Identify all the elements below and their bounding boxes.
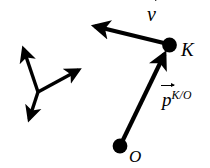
momentum-superscript: K/O — [172, 89, 192, 102]
axis-up-left-arrow — [24, 49, 39, 92]
diagram-canvas: v K p K/O O — [0, 0, 210, 168]
position-vector-p-k-over-o — [122, 54, 165, 142]
point-k-label: K — [181, 40, 194, 59]
vector-diagram-svg — [0, 0, 210, 168]
velocity-symbol: v — [147, 3, 156, 25]
point-o-label: O — [129, 148, 141, 165]
axis-up-right-arrow — [38, 70, 79, 92]
velocity-vector-label: v — [147, 4, 156, 24]
axis-down-left-arrow — [29, 92, 38, 119]
momentum-symbol-wrap: p — [162, 90, 172, 109]
position-vector-line — [122, 54, 165, 142]
momentum-vector-label: p K/O — [162, 90, 192, 109]
velocity-symbol-wrap: v — [147, 4, 156, 24]
vector-arrow-accent-icon — [161, 85, 174, 86]
velocity-vector-v — [95, 26, 168, 44]
point-k-dot — [162, 38, 177, 53]
point-o-dot — [113, 139, 128, 154]
coordinate-axes-triad — [24, 49, 79, 119]
velocity-vector-line — [95, 26, 168, 44]
momentum-symbol: p — [162, 89, 172, 110]
